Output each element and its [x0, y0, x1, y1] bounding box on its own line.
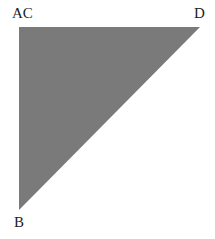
triangle-diagram: AC D B: [0, 0, 215, 239]
triangle-shape: [19, 27, 200, 210]
triangle-svg: [0, 0, 215, 239]
vertex-label-ac: AC: [12, 6, 33, 21]
vertex-label-b: B: [14, 215, 24, 230]
vertex-label-d: D: [194, 6, 205, 21]
